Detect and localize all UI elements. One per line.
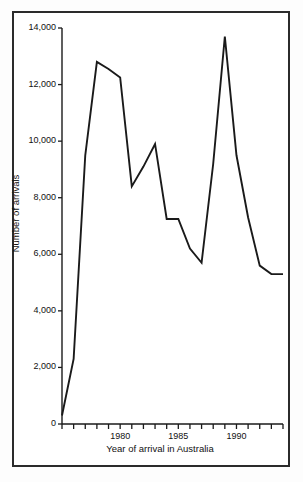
y-tick-label: 2,000 bbox=[8, 361, 56, 371]
y-tick-label: 0 bbox=[8, 418, 56, 428]
x-axis-title: Year of arrival in Australia bbox=[60, 443, 260, 454]
y-tick-label: 14,000 bbox=[8, 22, 56, 32]
y-tick-label: 12,000 bbox=[8, 79, 56, 89]
y-tick-label: 10,000 bbox=[8, 135, 56, 145]
x-tick-label: 1990 bbox=[216, 431, 256, 441]
y-tick-label: 4,000 bbox=[8, 305, 56, 315]
x-tick-label: 1980 bbox=[100, 431, 140, 441]
x-tick-label: 1985 bbox=[158, 431, 198, 441]
y-axis-title: Number of arrivals bbox=[10, 159, 21, 269]
chart-figure: 14,00012,00010,0008,0006,0004,0002,0000 … bbox=[0, 0, 303, 482]
